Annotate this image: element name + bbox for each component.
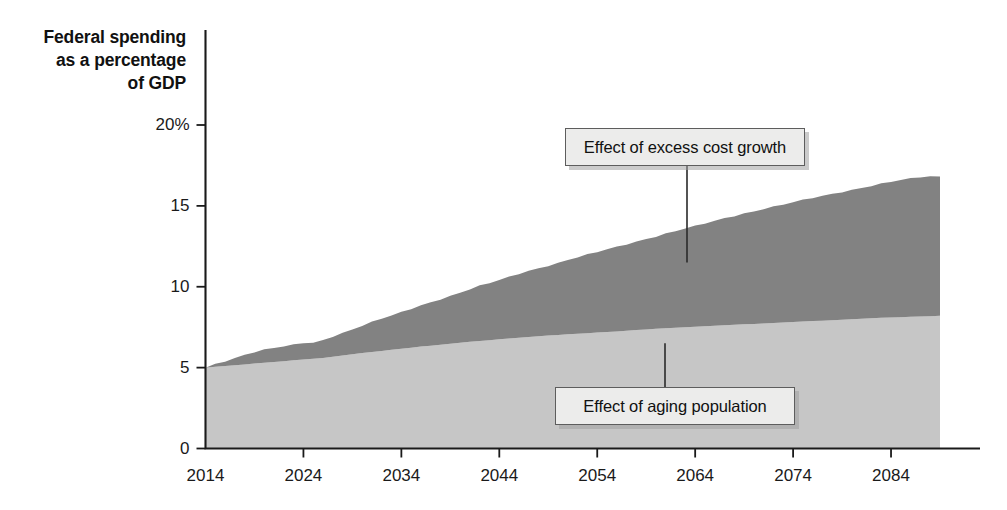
x-tick-label-2064: 2064 [655, 467, 735, 484]
x-tick-label-2054: 2054 [557, 467, 637, 484]
chart-title-line-1: Federal spending [8, 26, 186, 49]
y-tick-label-5: 5 [180, 359, 189, 376]
x-tick-label-2014: 2014 [166, 467, 246, 484]
y-axis-ticks [197, 125, 206, 449]
x-tick-label-2074: 2074 [753, 467, 833, 484]
x-tick-label-2034: 2034 [361, 467, 441, 484]
annotation-aging-population: Effect of aging population [555, 387, 795, 425]
chart-title-line-2: as a percentage [8, 49, 186, 72]
annotation-excess-cost-growth-label: Effect of excess cost growth [584, 138, 786, 157]
chart-title-line-3: of GDP [8, 72, 186, 95]
annotation-aging-population-label: Effect of aging population [583, 397, 766, 416]
area-aging-population [206, 316, 941, 449]
y-tick-label-0: 0 [180, 440, 189, 457]
y-tick-label-10: 10 [171, 278, 190, 295]
chart-figure: Federal spending as a percentage of GDP … [0, 0, 1007, 510]
annotation-excess-cost-growth: Effect of excess cost growth [565, 128, 805, 166]
chart-title: Federal spending as a percentage of GDP [8, 26, 186, 95]
x-tick-label-2044: 2044 [459, 467, 539, 484]
y-tick-label-20%: 20% [155, 116, 189, 133]
x-tick-label-2024: 2024 [263, 467, 343, 484]
x-tick-label-2084: 2084 [851, 467, 931, 484]
x-axis-ticks [303, 449, 891, 458]
y-tick-label-15: 15 [171, 197, 190, 214]
